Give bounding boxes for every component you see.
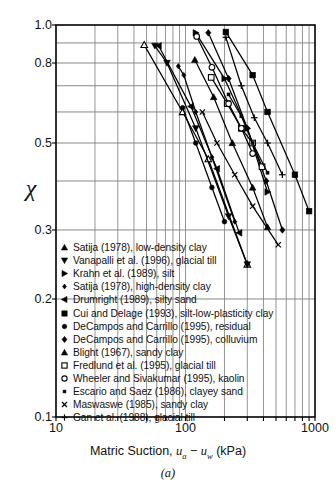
legend-item: Blight (1967), sandy clay: [56, 346, 306, 359]
legend-marker-circle-filled-icon: [56, 321, 73, 332]
figure-caption: (a): [0, 466, 336, 481]
y-tick-label: 0.5: [18, 136, 52, 150]
legend-item: Satija (1978), low-density clay: [56, 241, 306, 254]
legend-marker-square-icon: [56, 308, 73, 319]
legend-marker-diamond-small-icon: [56, 281, 73, 292]
legend-marker-triangle-up-icon: [56, 242, 73, 253]
legend-item: Krahn et al. (1989), silt: [56, 267, 306, 280]
legend-marker-square-tiny-icon: [56, 386, 73, 397]
legend-item-label: Wheeler and Sivakumar (1995), kaolin: [73, 373, 244, 384]
legend-item: Drumright (1989), silty sand: [56, 293, 306, 306]
legend-marker-square-open-icon: [56, 360, 73, 371]
legend-item: Gan et al. (1988), glacial till: [56, 411, 306, 424]
legend-marker-x-icon: [56, 399, 73, 410]
legend-item-label: Blight (1967), sandy clay: [73, 347, 183, 358]
legend-marker-triangle-up-icon: [56, 347, 73, 358]
legend-item: DeCampos and Carrillo (1995), residual: [56, 320, 306, 333]
legend-item-label: Gan et al. (1988), glacial till: [73, 412, 195, 423]
legend-item: Wheeler and Sivakumar (1995), kaolin: [56, 372, 306, 385]
legend-marker-circle-open-icon: [56, 373, 73, 384]
legend-marker-plus-icon: [56, 412, 73, 423]
legend-item-label: Escario and Saez (1986), clayey sand: [73, 386, 243, 397]
y-tick-label: 1.0: [18, 18, 52, 32]
legend-marker-diamond-filled-icon: [56, 334, 73, 345]
legend-item-label: Vanapalli et al. (1996), glacial till: [73, 255, 217, 266]
y-axis-tick-labels: 1.00.80.50.30.20.1: [14, 0, 52, 490]
chart-legend: Satija (1978), low-density clayVanapalli…: [56, 241, 306, 424]
legend-item-label: Drumright (1989), silty sand: [73, 294, 197, 305]
legend-item: Satija (1978), high-density clay: [56, 280, 306, 293]
y-tick-label: 0.2: [18, 292, 52, 306]
legend-item: Escario and Saez (1986), clayey sand: [56, 385, 306, 398]
legend-item-label: Maswaswe (1985), sandy clay: [73, 399, 208, 410]
legend-item: Fredlund et al. (1995), glacial till: [56, 359, 306, 372]
legend-item: DeCampos and Carrillo (1995), colluvium: [56, 333, 306, 346]
legend-item: Vanapalli et al. (1996), glacial till: [56, 254, 306, 267]
legend-item: Cui and Delage (1993), silt-low-plastici…: [56, 306, 306, 319]
legend-item-label: Satija (1978), high-density clay: [73, 281, 211, 292]
y-tick-label: 0.3: [18, 223, 52, 237]
legend-item-label: Cui and Delage (1993), silt-low-plastici…: [73, 308, 273, 319]
legend-item-label: Krahn et al. (1989), silt: [73, 268, 174, 279]
legend-item-label: DeCampos and Carrillo (1995), colluvium: [73, 334, 257, 345]
legend-item-label: Satija (1978), low-density clay: [73, 242, 207, 253]
legend-marker-triangle-left-icon: [56, 294, 73, 305]
legend-item: Maswaswe (1985), sandy clay: [56, 398, 306, 411]
legend-item-label: DeCampos and Carrillo (1995), residual: [73, 321, 251, 332]
legend-marker-triangle-down-icon: [56, 255, 73, 266]
legend-item-label: Fredlund et al. (1995), glacial till: [73, 360, 216, 371]
y-axis-label: χ: [14, 176, 48, 200]
x-axis-label: Matric Suction, ua − uw (kPa): [0, 444, 336, 461]
y-tick-label: 0.8: [18, 56, 52, 70]
legend-marker-triangle-right-icon: [56, 268, 73, 279]
